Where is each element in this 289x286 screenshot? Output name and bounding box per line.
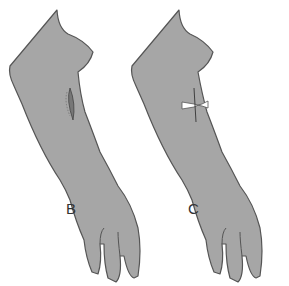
arm-illustration: [0, 0, 289, 286]
arm-b: [10, 10, 141, 282]
panel-label-c: C: [188, 200, 199, 217]
panel-label-b: B: [66, 200, 76, 217]
arm-c: [132, 10, 263, 282]
